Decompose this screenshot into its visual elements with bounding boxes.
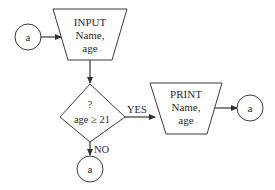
input-box-line3: age	[82, 42, 97, 54]
decision-diamond: ? age ≥ 21	[60, 84, 125, 142]
print-box-line2: Name,	[171, 101, 200, 113]
input-box-line2: Name,	[75, 29, 104, 41]
flowchart: a INPUT Name, age ? age ≥ 21 YES PRINT N…	[0, 0, 275, 190]
yes-connector-label: a	[248, 102, 253, 114]
print-box-line1: PRINT	[170, 88, 202, 100]
no-connector-label: a	[88, 163, 93, 175]
yes-label: YES	[127, 104, 147, 115]
print-box: PRINT Name, age	[150, 83, 222, 134]
start-connector-label: a	[26, 31, 31, 43]
input-box-line1: INPUT	[74, 16, 107, 28]
no-connector: a	[77, 156, 103, 182]
start-connector: a	[15, 24, 41, 50]
decision-condition: age ≥ 21	[74, 114, 110, 125]
input-box: INPUT Name, age	[53, 9, 127, 60]
decision-question-mark: ?	[88, 99, 93, 110]
yes-connector: a	[237, 95, 263, 121]
no-label: NO	[94, 144, 110, 155]
print-box-line3: age	[178, 114, 193, 126]
